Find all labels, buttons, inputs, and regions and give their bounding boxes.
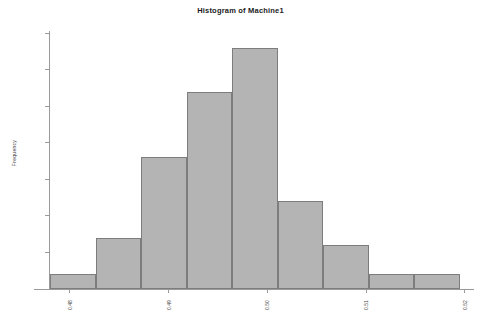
y-tick-mark	[45, 215, 49, 216]
histogram-bar	[414, 274, 460, 289]
y-tick-mark	[45, 289, 49, 290]
y-axis-label: Frequency	[11, 93, 17, 213]
chart-title: Histogram of Machine1	[0, 6, 481, 15]
x-tick-label: 0.51	[363, 292, 369, 318]
histogram-bar	[96, 238, 142, 289]
y-tick-mark	[45, 252, 49, 253]
histogram-bar	[278, 201, 324, 289]
x-tick-label: 0.48	[67, 292, 73, 318]
histogram-bar	[141, 157, 187, 289]
x-tick-label: 0.50	[264, 292, 270, 318]
y-tick-mark	[45, 142, 49, 143]
x-tick-label: 0.52	[462, 292, 468, 318]
x-axis-line	[34, 289, 474, 290]
histogram-bar	[323, 245, 369, 289]
plot-area	[50, 33, 460, 289]
histogram-bar	[187, 92, 233, 289]
histogram-chart: Histogram of Machine1 Frequency 05101520…	[0, 0, 481, 327]
y-tick-mark	[45, 179, 49, 180]
y-tick-mark	[45, 69, 49, 70]
y-tick-mark	[45, 33, 49, 34]
y-tick-mark	[45, 106, 49, 107]
histogram-bar	[369, 274, 415, 289]
histogram-bar	[232, 48, 278, 289]
x-tick-label: 0.49	[166, 292, 172, 318]
histogram-bar	[50, 274, 96, 289]
